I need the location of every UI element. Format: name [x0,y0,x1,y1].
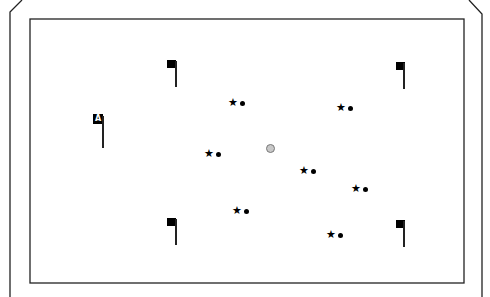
star-icon: ★ [204,148,214,159]
dot-icon [311,169,316,174]
flag-bottom-right[interactable] [396,220,406,247]
flag-top-right[interactable] [396,62,406,89]
star-icon: ★ [326,229,336,240]
player-marker[interactable]: ★ [351,183,369,195]
outer-boundary-left [10,0,22,297]
dot-icon [216,152,221,157]
flag-bottom-left[interactable] [167,218,177,245]
outer-boundary-right [469,0,482,297]
flag-pole [403,221,405,247]
star-icon: ★ [228,97,238,108]
star-icon: ★ [299,165,309,176]
star-icon: ★ [336,102,346,113]
flag-pole [403,63,405,89]
dot-icon [244,209,249,214]
dot-icon [240,101,245,106]
labeled-flag-a[interactable]: A [93,114,104,149]
field-boundaries [0,0,490,297]
player-marker[interactable]: ★ [299,165,317,177]
player-marker[interactable]: ★ [232,205,250,217]
flag-pole [175,61,177,87]
flag-top-left[interactable] [167,60,177,87]
player-marker[interactable]: ★ [228,97,246,109]
flag-pole [102,116,104,148]
player-marker[interactable]: ★ [336,102,354,114]
flag-pole [175,219,177,245]
dot-icon [348,106,353,111]
player-marker[interactable]: ★ [326,229,344,241]
player-marker[interactable]: ★ [204,148,222,160]
star-icon: ★ [351,183,361,194]
dot-icon [363,187,368,192]
ball[interactable] [266,144,275,153]
star-icon: ★ [232,205,242,216]
dot-icon [338,233,343,238]
